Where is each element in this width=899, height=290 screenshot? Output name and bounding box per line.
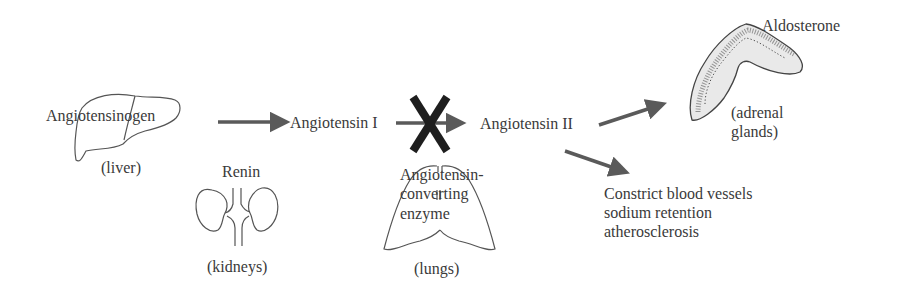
aldosterone-label: Aldosterone [762, 16, 840, 35]
arrow-angiotensin-ii-to-aldosterone [599, 106, 657, 125]
liver-icon [75, 94, 180, 161]
angiotensin-i-label: Angiotensin I [290, 113, 378, 132]
diagram-artwork [0, 0, 899, 290]
ace-label-line3: enzyme [400, 204, 450, 223]
lungs-organ-label: (lungs) [414, 259, 459, 278]
liver-organ-label: (liver) [101, 158, 141, 177]
effects-line3: atherosclerosis [604, 222, 699, 241]
effects-line1: Constrict blood vessels [604, 184, 752, 203]
adrenal-organ-label-line2: glands) [731, 122, 778, 141]
effects-line2: sodium retention [604, 203, 712, 222]
kidneys-organ-label: (kidneys) [207, 257, 267, 276]
ace-label-line1: Angiotensin- [400, 165, 484, 184]
ace-label-line2: converting [400, 184, 468, 203]
angiotensin-ii-label: Angiotensin II [480, 114, 573, 133]
renin-label: Renin [222, 162, 260, 181]
kidneys-icon [196, 188, 278, 246]
adrenal-organ-label-line1: (adrenal [731, 103, 783, 122]
arrow-angiotensin-ii-to-effects [565, 151, 620, 170]
angiotensinogen-label: Angiotensinogen [46, 106, 155, 125]
